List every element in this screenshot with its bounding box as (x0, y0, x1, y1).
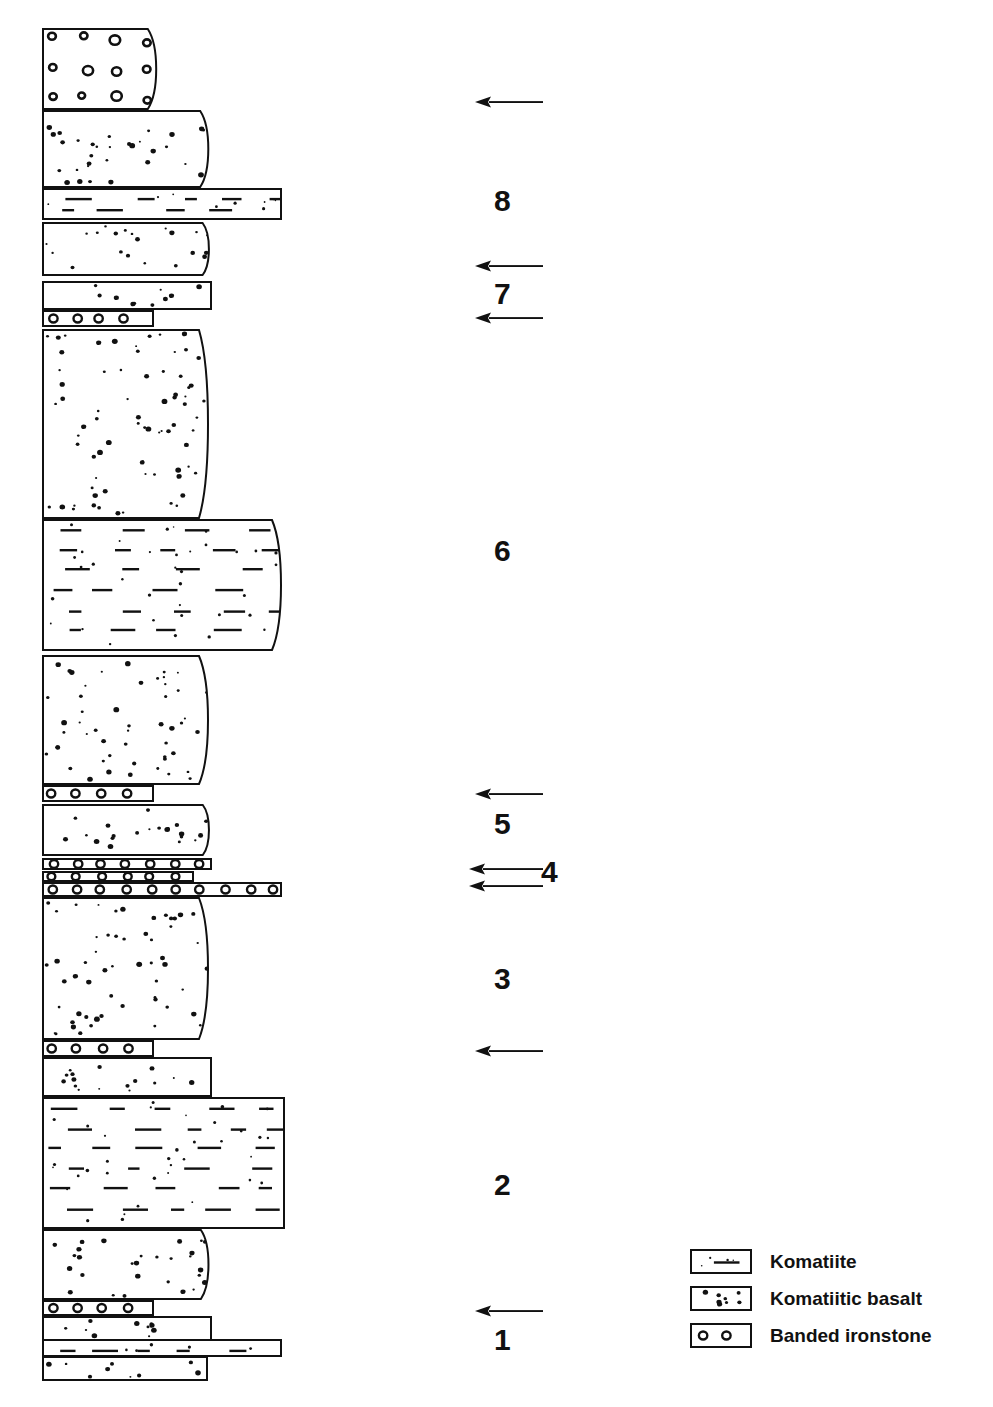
strat-unit-komatiitic-basalt (42, 1356, 208, 1381)
boundary-arrow-left (473, 95, 545, 109)
strat-unit-banded-ironstone (42, 1040, 154, 1057)
legend-swatch-banded-ironstone-icon (690, 1323, 752, 1348)
boundary-arrow-left (473, 1044, 545, 1058)
strat-unit-banded-ironstone (42, 785, 154, 802)
strat-unit-komatiitic-basalt (42, 1229, 212, 1300)
strat-unit-komatiite (42, 1097, 285, 1229)
boundary-arrow-left (467, 879, 545, 893)
strat-unit-komatiitic-basalt (42, 329, 212, 519)
legend: KomatiiteKomatiitic basaltBanded ironsto… (690, 1243, 990, 1354)
legend-item-komatiite: Komatiite (690, 1243, 990, 1280)
strat-unit-komatiitic-basalt (42, 281, 212, 310)
boundary-arrow-left (473, 787, 545, 801)
strat-unit-komatiitic-basalt (42, 110, 212, 188)
legend-label: Komatiitic basalt (770, 1288, 922, 1310)
strat-unit-banded-ironstone (42, 882, 282, 897)
boundary-arrow-left (473, 259, 545, 273)
cycle-number: 5 (494, 809, 511, 839)
cycle-number: 1 (494, 1325, 511, 1355)
figure-canvas: 87654321 KomatiiteKomatiitic basaltBande… (0, 0, 993, 1407)
strat-unit-komatiite (42, 1339, 282, 1357)
boundary-arrow-left (473, 1304, 545, 1318)
cycle-number: 6 (494, 536, 511, 566)
strat-unit-komatiite (42, 188, 282, 220)
cycle-number: 3 (494, 964, 511, 994)
cycle-number: 8 (494, 186, 511, 216)
legend-swatch-komatiitic-basalt-icon (690, 1286, 752, 1311)
strat-unit-banded-ironstone (42, 310, 154, 327)
strat-unit-komatiitic-basalt (42, 655, 212, 785)
strat-unit-komatiite (42, 519, 285, 651)
boundary-arrow-left (473, 311, 545, 325)
legend-item-banded-ironstone: Banded ironstone (690, 1317, 990, 1354)
strat-unit-komatiitic-basalt (42, 1057, 212, 1097)
legend-label: Banded ironstone (770, 1325, 932, 1347)
strat-unit-banded-ironstone (42, 871, 194, 882)
strat-unit-komatiitic-basalt (42, 222, 212, 276)
legend-swatch-komatiite-icon (690, 1249, 752, 1274)
strat-unit-banded-ironstone (42, 1300, 154, 1316)
legend-label: Komatiite (770, 1251, 857, 1273)
boundary-arrow-left (467, 862, 545, 876)
cycle-number: 2 (494, 1170, 511, 1200)
strat-unit-komatiitic-basalt (42, 804, 212, 856)
strat-unit-komatiitic-basalt (42, 897, 212, 1040)
legend-item-komatiitic-basalt: Komatiitic basalt (690, 1280, 990, 1317)
strat-unit-banded-ironstone (42, 858, 212, 870)
strat-unit-banded-ironstone (42, 28, 160, 110)
cycle-number: 7 (494, 279, 511, 309)
